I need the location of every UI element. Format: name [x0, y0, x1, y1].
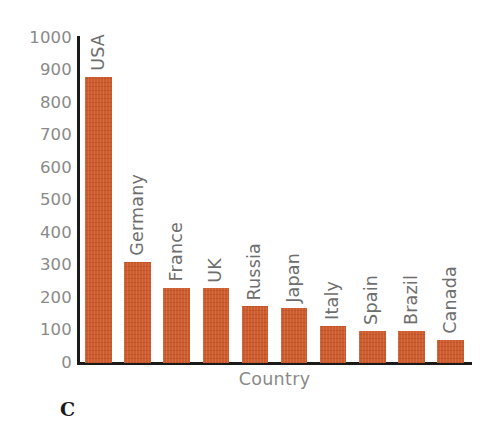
- bar: [85, 77, 112, 363]
- bar-container: Japan: [281, 308, 308, 363]
- bar-container: UK: [203, 288, 230, 363]
- bar: [203, 288, 230, 363]
- bar: [242, 306, 269, 363]
- bar: [163, 288, 190, 363]
- bar-group: Italy: [320, 38, 347, 363]
- bar: [320, 326, 347, 363]
- bar-category-label: Italy: [324, 281, 342, 320]
- bar-category-label: Canada: [442, 266, 460, 334]
- bar-group: Spain: [359, 38, 386, 363]
- y-axis-tick-label: 300: [10, 257, 72, 274]
- bar: [281, 308, 308, 363]
- bar-category-label: France: [168, 222, 186, 281]
- y-axis-tick-labels: 10009008007006005004003002001000: [6, 0, 72, 438]
- bar-category-label: Brazil: [403, 275, 421, 325]
- bar-group: France: [163, 38, 190, 363]
- bar-group: UK: [203, 38, 230, 363]
- y-axis-tick-label: 900: [10, 62, 72, 79]
- bar-container: Spain: [359, 331, 386, 364]
- y-axis-tick-label: 200: [10, 290, 72, 307]
- bar-group: USA: [85, 38, 112, 363]
- y-axis-tick-label: 700: [10, 127, 72, 144]
- bar-category-label: Spain: [363, 275, 381, 325]
- bar-group: Canada: [437, 38, 464, 363]
- y-axis-tick-label: 600: [10, 160, 72, 177]
- bar-container: Italy: [320, 326, 347, 363]
- bar: [398, 331, 425, 363]
- y-axis-tick-label: 800: [10, 95, 72, 112]
- y-axis-tick-label: 400: [10, 225, 72, 242]
- plot-area: USAGermanyFranceUKRussiaJapanItalySpainB…: [79, 38, 470, 363]
- bar-container: USA: [85, 77, 112, 363]
- bar-group: Russia: [242, 38, 269, 363]
- bar-group: Japan: [281, 38, 308, 363]
- bar-group: Germany: [124, 38, 151, 363]
- panel-label: C: [60, 398, 75, 420]
- bar-container: France: [163, 288, 190, 363]
- x-axis-title: Country: [79, 369, 470, 389]
- y-axis-tick-label: 0: [10, 355, 72, 372]
- bar-category-label: USA: [90, 34, 108, 71]
- bar: [359, 331, 386, 364]
- bar-container: Russia: [242, 306, 269, 363]
- y-axis-tick-label: 1000: [10, 30, 72, 47]
- y-axis-tick-label: 100: [10, 322, 72, 339]
- bar: [437, 340, 464, 363]
- bar-category-label: Germany: [129, 174, 147, 256]
- bar-category-label: Japan: [285, 253, 303, 303]
- bar-container: Brazil: [398, 331, 425, 363]
- bar: [124, 262, 151, 363]
- bar-container: Canada: [437, 340, 464, 363]
- bar-container: Germany: [124, 262, 151, 363]
- bar-category-label: Russia: [246, 243, 264, 301]
- y-axis-tick-label: 500: [10, 192, 72, 209]
- bar-group: Brazil: [398, 38, 425, 363]
- bar-category-label: UK: [207, 258, 225, 283]
- chart-figure: 10009008007006005004003002001000 USAGerm…: [0, 0, 480, 438]
